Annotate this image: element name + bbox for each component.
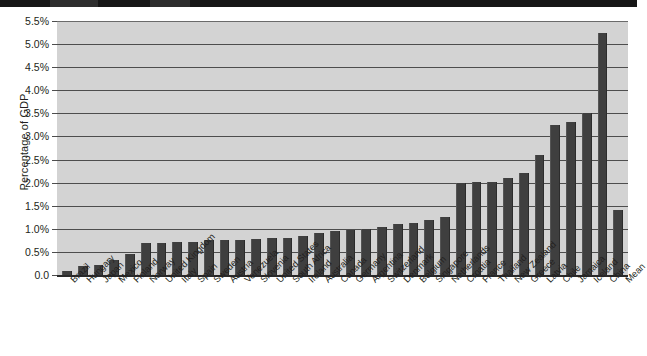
bar-slot xyxy=(169,21,185,275)
bar-slot xyxy=(595,21,611,275)
bar-slot xyxy=(311,21,327,275)
y-tick-mark xyxy=(52,275,57,276)
bar-slot xyxy=(138,21,154,275)
bar-slot xyxy=(280,21,296,275)
y-tick-label: 2.5% xyxy=(25,154,49,166)
bar-slot xyxy=(374,21,390,275)
plot-area xyxy=(57,21,628,275)
y-tick-mark xyxy=(52,113,57,114)
bar xyxy=(598,33,608,275)
y-tick-label: 2.0% xyxy=(25,177,49,189)
y-tick-mark xyxy=(52,136,57,137)
bar-slot xyxy=(122,21,138,275)
y-tick-label: 1.5% xyxy=(25,200,49,212)
y-tick-mark xyxy=(52,229,57,230)
x-axis-labels: BrazilHungaryJapanMexicoFinlandNorwayUni… xyxy=(57,277,628,356)
y-tick-mark xyxy=(52,183,57,184)
y-tick-label: 1.0% xyxy=(25,223,49,235)
bar-slot xyxy=(185,21,201,275)
bar-slot xyxy=(532,21,548,275)
bar-slot xyxy=(421,21,437,275)
bar-slot xyxy=(610,21,626,275)
bar-slot xyxy=(232,21,248,275)
y-tick-label: 4.5% xyxy=(25,61,49,73)
y-tick-label: 0.0 xyxy=(34,269,49,281)
y-tick-mark xyxy=(52,252,57,253)
bar-series xyxy=(57,21,628,275)
y-tick-mark xyxy=(52,67,57,68)
bar-slot xyxy=(484,21,500,275)
bar-slot xyxy=(154,21,170,275)
y-tick-mark xyxy=(52,206,57,207)
y-tick-label: 0.5% xyxy=(25,246,49,258)
bar-slot xyxy=(469,21,485,275)
bar-slot xyxy=(516,21,532,275)
y-tick-mark xyxy=(52,21,57,22)
bar xyxy=(566,122,576,275)
bar-slot xyxy=(390,21,406,275)
y-axis-ticks: 5.5%5.0%4.5%4.0%3.5%3.0%2.5%2.0%1.5%1.0%… xyxy=(0,0,57,356)
bar-slot xyxy=(75,21,91,275)
y-tick-mark xyxy=(52,160,57,161)
bar-slot xyxy=(437,21,453,275)
bar-slot xyxy=(106,21,122,275)
bar-slot xyxy=(358,21,374,275)
y-tick-label: 5.0% xyxy=(25,38,49,50)
bar-slot xyxy=(327,21,343,275)
bar-slot xyxy=(217,21,233,275)
y-tick-label: 3.0% xyxy=(25,130,49,142)
y-tick-label: 5.5% xyxy=(25,15,49,27)
bar-slot xyxy=(295,21,311,275)
bar-slot xyxy=(406,21,422,275)
bar-slot xyxy=(91,21,107,275)
y-tick-mark xyxy=(52,90,57,91)
y-tick-mark xyxy=(52,44,57,45)
bar-slot xyxy=(248,21,264,275)
bar-slot xyxy=(563,21,579,275)
bar-slot xyxy=(453,21,469,275)
y-tick-label: 4.0% xyxy=(25,84,49,96)
bar xyxy=(582,113,592,275)
bar-slot xyxy=(500,21,516,275)
y-tick-label: 3.5% xyxy=(25,107,49,119)
bar-slot xyxy=(343,21,359,275)
bar-slot xyxy=(547,21,563,275)
bar-slot xyxy=(264,21,280,275)
bar-slot xyxy=(59,21,75,275)
bar-slot xyxy=(579,21,595,275)
